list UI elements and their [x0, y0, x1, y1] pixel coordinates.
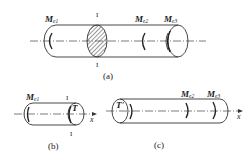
label-me1-a: Me1 [44, 14, 58, 24]
section-mark-bottom-a: I [96, 61, 99, 69]
caption-b: (b) [48, 141, 59, 151]
cross-section-hatched [87, 25, 107, 57]
label-torque-b: T [72, 103, 78, 113]
shaft-b: Me1 T I I x (b) [14, 92, 97, 151]
torque-arrow-b [69, 106, 71, 123]
moment-arrow-me1-b [28, 107, 30, 122]
label-me2-a: Me2 [134, 14, 148, 24]
section-mark-top-a: I [96, 11, 99, 19]
label-me2-c: Me2 [180, 89, 194, 99]
caption-a: (a) [103, 71, 113, 81]
section-mark-top-b: I [66, 94, 69, 102]
torque-arrow-c [130, 104, 132, 119]
label-me3-c: Me3 [206, 89, 220, 99]
section-mark-bottom-b: I [70, 130, 73, 138]
label-me3-a: Me3 [163, 14, 177, 24]
label-me1-b: Me1 [25, 92, 39, 102]
moment-arrow-me2 [143, 33, 146, 50]
moment-arrow-me3-c [213, 102, 216, 119]
caption-c: (c) [154, 140, 164, 150]
moment-arrow-me2-c [186, 103, 188, 118]
axis-label-c: x [236, 112, 241, 121]
label-torque-c: T' [116, 100, 124, 110]
axis-label-b: x [89, 115, 94, 124]
shaft-c: T' Me2 Me3 x (c) [106, 89, 243, 150]
shaft-torsion-diagram: Me1 I I Me2 Me3 (a) Me1 T I I x (b) T' M… [0, 0, 251, 164]
shaft-a: Me1 I I Me2 Me3 (a) [30, 11, 206, 81]
